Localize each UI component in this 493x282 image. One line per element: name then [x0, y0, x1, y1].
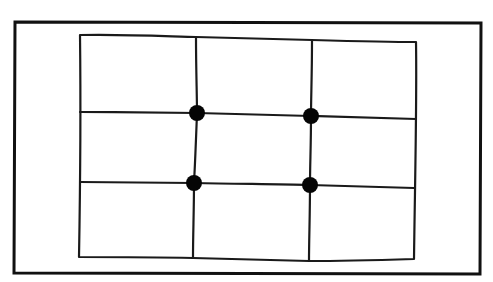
intersection-dot-bottom-right: [302, 177, 318, 193]
intersection-dot-bottom-left: [186, 175, 202, 191]
vertical-gridline-1: [193, 37, 197, 258]
horizontal-gridline-1: [80, 112, 416, 119]
vertical-gridline-2: [309, 40, 312, 261]
intersection-dot-top-left: [189, 105, 205, 121]
intersection-points: [186, 105, 319, 193]
intersection-dot-top-right: [303, 108, 319, 124]
horizontal-gridlines: [80, 112, 416, 188]
rule-of-thirds-diagram: [0, 0, 493, 282]
horizontal-gridline-2: [80, 182, 414, 188]
grid-border: [79, 35, 416, 261]
diagram-canvas: [0, 0, 493, 282]
vertical-gridlines: [193, 37, 312, 261]
outer-frame: [14, 22, 481, 274]
